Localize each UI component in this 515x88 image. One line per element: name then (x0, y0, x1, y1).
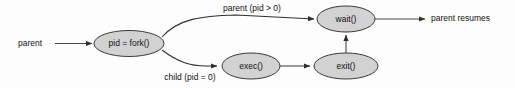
edge-label-child-branch: child (pid = 0) (164, 72, 215, 82)
edge-fork-to-wait (162, 15, 314, 37)
terminal-label-parent: parent (18, 38, 43, 48)
node-exec[interactable]: exec() (222, 53, 280, 79)
diagram-canvas: pid = fork() wait() exec() exit() parent… (0, 0, 515, 88)
terminal-label-parent-resumes: parent resumes (431, 13, 490, 23)
node-wait-label: wait() (335, 14, 357, 24)
node-exit[interactable]: exit() (314, 53, 378, 79)
node-wait[interactable]: wait() (317, 6, 375, 32)
node-exit-label: exit() (337, 61, 356, 71)
node-fork[interactable]: pid = fork() (94, 31, 164, 57)
edge-label-parent-branch: parent (pid > 0) (223, 3, 281, 13)
node-fork-label: pid = fork() (109, 38, 150, 48)
node-exec-label: exec() (239, 61, 263, 71)
edge-fork-to-exec (162, 50, 217, 66)
process-flow-diagram: pid = fork() wait() exec() exit() parent… (0, 0, 515, 88)
